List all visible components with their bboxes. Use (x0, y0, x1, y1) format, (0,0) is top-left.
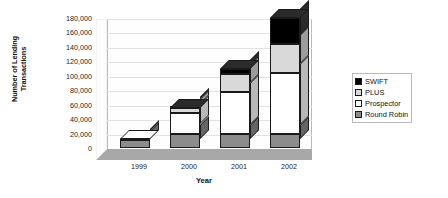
bar-segment (270, 134, 300, 148)
legend-item: SWIFT (355, 76, 408, 87)
y-tick-label: 60,000 (44, 102, 92, 110)
x-tick-label: 2002 (266, 162, 312, 171)
bar-segment (170, 134, 200, 148)
y-tick-label: 80,000 (44, 87, 92, 95)
legend-label: Prospector (365, 99, 401, 108)
bar-segment (120, 140, 150, 148)
bar-segment (220, 69, 250, 74)
y-axis-tick-labels: 020,00040,00060,00080,000100,000120,0001… (44, 0, 92, 198)
bar-segment (220, 92, 250, 134)
legend-swatch-icon (355, 111, 362, 118)
bar-column (170, 108, 200, 148)
legend-item: Round Robin (355, 109, 408, 120)
legend: SWIFTPLUSProspectorRound Robin (352, 73, 412, 123)
x-axis-title: Year (96, 176, 312, 185)
bar-segment-side (300, 55, 309, 125)
y-axis-title: Number of Lending Transactions (0, 9, 39, 129)
x-tick-label: 2000 (166, 162, 212, 171)
bar-segment (270, 73, 300, 134)
y-tick-label: 180,000 (44, 15, 92, 23)
bar-segment (270, 44, 300, 73)
bar-column (270, 18, 300, 148)
legend-swatch-icon (355, 78, 362, 85)
bar-segment (170, 113, 200, 133)
legend-label: Round Robin (365, 110, 408, 119)
legend-label: SWIFT (365, 77, 388, 86)
y-tick-label: 120,000 (44, 58, 92, 66)
bar-segment (220, 74, 250, 92)
bar-segment (270, 18, 300, 44)
y-tick-label: 0 (44, 145, 92, 153)
y-tick-label: 100,000 (44, 73, 92, 81)
legend-item: PLUS (355, 87, 408, 98)
y-tick-label: 20,000 (44, 131, 92, 139)
y-axis-title-line1: Number of Lending (10, 36, 19, 102)
y-tick-label: 140,000 (44, 44, 92, 52)
x-axis-tick-labels: 1999200020012002 (96, 162, 312, 176)
y-tick-label: 40,000 (44, 116, 92, 124)
bar-column (220, 69, 250, 148)
legend-label: PLUS (365, 88, 384, 97)
bar-segment (220, 134, 250, 148)
legend-swatch-icon (355, 89, 362, 96)
lending-transactions-chart: Number of Lending Transactions 020,00040… (0, 0, 448, 198)
bar-segment (170, 108, 200, 113)
x-tick-label: 2001 (216, 162, 262, 171)
x-tick-label: 1999 (116, 162, 162, 171)
y-tick-label: 160,000 (44, 29, 92, 37)
legend-swatch-icon (355, 100, 362, 107)
legend-item: Prospector (355, 98, 408, 109)
y-axis-title-line2: Transactions (19, 47, 28, 91)
bar-column (120, 139, 150, 148)
plot-area (96, 19, 312, 159)
